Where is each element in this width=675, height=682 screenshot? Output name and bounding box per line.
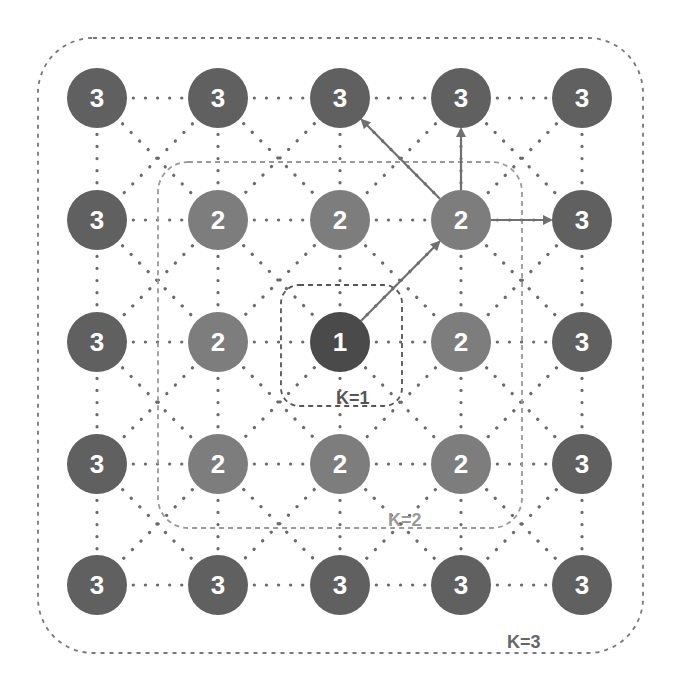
k-labels: K=1 K=2 K=3 [336, 388, 541, 652]
node-label: 3 [211, 570, 225, 600]
node-label: 2 [211, 449, 225, 479]
node-level-3: 3 [552, 434, 612, 494]
node-label: 3 [90, 570, 104, 600]
node-level-3: 3 [431, 68, 491, 128]
node-level-3: 3 [552, 190, 612, 250]
node-level-3: 3 [552, 555, 612, 615]
node-level-3: 3 [552, 312, 612, 372]
node-label: 2 [211, 327, 225, 357]
node-level-2: 2 [188, 434, 248, 494]
node-level-2: 2 [188, 312, 248, 372]
node-level-2: 2 [310, 190, 370, 250]
node-label: 2 [454, 205, 468, 235]
k3-label: K=3 [507, 632, 541, 652]
node-level-3: 3 [310, 555, 370, 615]
node-label: 3 [575, 205, 589, 235]
node-level-3: 3 [67, 190, 127, 250]
node-level-3: 3 [67, 312, 127, 372]
node-label: 3 [90, 83, 104, 113]
node-label: 3 [454, 570, 468, 600]
node-level-3: 3 [67, 68, 127, 128]
node-label: 3 [90, 205, 104, 235]
node-label: 3 [575, 570, 589, 600]
node-label: 2 [333, 449, 347, 479]
k-hop-neighborhood-diagram: 3333332223321233222333333 K=1 K=2 K=3 [0, 0, 675, 682]
node-label: 3 [333, 570, 347, 600]
k2-label: K=2 [388, 510, 422, 530]
node-label: 2 [333, 205, 347, 235]
node-label: 3 [575, 327, 589, 357]
node-label: 3 [575, 83, 589, 113]
node-label: 2 [454, 449, 468, 479]
node-level-3: 3 [188, 68, 248, 128]
node-label: 1 [333, 327, 347, 357]
node-label: 2 [454, 327, 468, 357]
k1-label: K=1 [336, 388, 370, 408]
node-label: 3 [454, 83, 468, 113]
node-level-3: 3 [67, 434, 127, 494]
node-level-3: 3 [67, 555, 127, 615]
node-label: 3 [90, 449, 104, 479]
node-level-3: 3 [431, 555, 491, 615]
node-label: 3 [90, 327, 104, 357]
node-level-2: 2 [188, 190, 248, 250]
node-level-3: 3 [552, 68, 612, 128]
node-label: 3 [575, 449, 589, 479]
node-level-2: 2 [431, 434, 491, 494]
node-level-1: 1 [310, 312, 370, 372]
node-level-2: 2 [431, 190, 491, 250]
node-level-3: 3 [310, 68, 370, 128]
node-level-3: 3 [188, 555, 248, 615]
node-label: 2 [211, 205, 225, 235]
node-label: 3 [333, 83, 347, 113]
node-level-2: 2 [310, 434, 370, 494]
node-level-2: 2 [431, 312, 491, 372]
node-label: 3 [211, 83, 225, 113]
